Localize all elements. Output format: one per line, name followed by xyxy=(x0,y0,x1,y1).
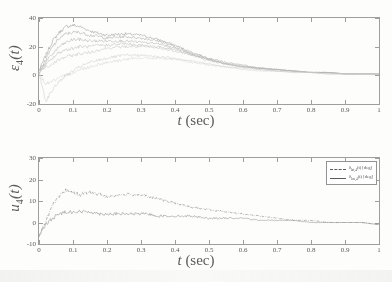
y-tick-label: 0 xyxy=(33,219,37,227)
y-axis-label-subscript: 4 xyxy=(14,199,25,204)
legend: δlat,4(t) [deg] δlon,4(t) [deg] xyxy=(326,161,377,185)
plot-area-epsilon-4: 40 20 0 -20 0 0.1 0.2 0.3 0.4 0.5 0.6 0.… xyxy=(38,17,380,105)
y-axis-label-u-4: u4(t) xyxy=(6,184,25,212)
y-axis-label-argument: (t) xyxy=(6,45,22,60)
y-axis-label-epsilon-4: ε4(t) xyxy=(6,45,25,71)
legend-item-label: δlon,4(t) [deg] xyxy=(349,174,373,181)
x-axis-label-symbol: t xyxy=(177,252,181,268)
legend-item: δlat,4(t) [deg] xyxy=(330,164,373,173)
y-axis-label-symbol: ε xyxy=(6,65,22,71)
y-tick-label: 20 xyxy=(29,176,36,184)
x-axis-label-symbol: t xyxy=(177,112,181,128)
legend-item: δlon,4(t) [deg] xyxy=(330,173,373,182)
x-axis-label-unit: (sec) xyxy=(185,252,214,268)
chart-panel-epsilon-4: ε4(t) 40 20 0 -20 0 0.1 0.2 xyxy=(0,0,392,141)
y-tick-label: 40 xyxy=(29,14,36,22)
data-traces-epsilon-4 xyxy=(39,18,379,104)
figure-container: ε4(t) 40 20 0 -20 0 0.1 0.2 xyxy=(0,0,392,282)
x-axis-label-bottom: t (sec) xyxy=(0,252,392,269)
y-axis-label-argument: (t) xyxy=(6,184,22,199)
x-axis-label-top: t (sec) xyxy=(0,112,392,129)
legend-unit: (t) [deg] xyxy=(357,165,372,170)
y-tick-label: 20 xyxy=(29,43,36,51)
y-axis-label-symbol: u xyxy=(6,204,22,212)
y-tick-label: -20 xyxy=(27,100,36,108)
y-tick-label: 0 xyxy=(33,71,37,79)
legend-item-label: δlat,4(t) [deg] xyxy=(349,165,372,172)
chart-panel-u-4: u4(t) 30 20 10 0 -10 0 xyxy=(0,141,392,282)
y-tick-label: 30 xyxy=(29,154,36,162)
plot-area-u-4: 30 20 10 0 -10 0 0.1 0.2 0.3 0.4 xyxy=(38,157,380,245)
y-tick-label: -10 xyxy=(27,240,36,248)
y-tick-label: 10 xyxy=(29,197,36,205)
legend-unit: (t) [deg] xyxy=(358,174,373,179)
y-axis-label-subscript: 4 xyxy=(14,60,25,65)
legend-subscript: lon,4 xyxy=(351,177,358,181)
x-axis-label-unit: (sec) xyxy=(185,112,214,128)
scan-artifact xyxy=(0,270,392,282)
